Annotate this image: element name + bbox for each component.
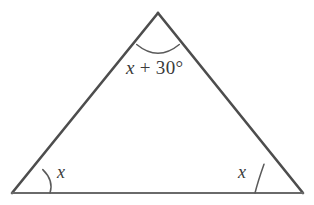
apex-angle-value: 30° [156, 57, 184, 78]
right-angle-arc-icon [255, 164, 264, 193]
triangle-right-side [158, 13, 303, 193]
apex-angle-arc-icon [137, 45, 180, 54]
apex-angle-label: x + 30° [126, 58, 183, 77]
triangle-drawing-canvas [0, 0, 314, 205]
apex-angle-operator: + [135, 57, 156, 78]
apex-angle-variable: x [126, 57, 135, 78]
triangle-figure: x + 30° x x [0, 0, 314, 205]
triangle-left-side [12, 13, 158, 193]
left-angle-arc-icon [43, 170, 51, 193]
left-angle-label: x [57, 163, 65, 181]
right-angle-label: x [238, 163, 246, 181]
